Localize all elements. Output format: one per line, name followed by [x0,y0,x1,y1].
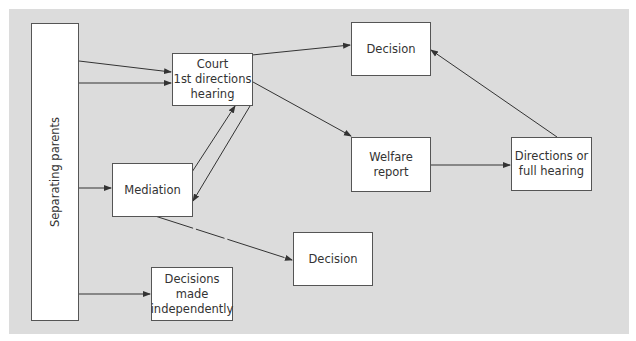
figure-caption-clipped [10,0,14,5]
node-separating-parents-label: Separating parents [48,117,62,227]
node-decision-top: Decision [351,22,431,76]
node-mediation: Mediation [112,163,193,217]
node-directions-or-full-hearing: Directions or full hearing [511,137,592,191]
node-decisions-made-independently: Decisions made independently [151,267,233,321]
node-decision-bottom: Decision [293,232,373,286]
node-court-first-directions-hearing: Court 1st directions hearing [172,53,253,106]
node-separating-parents: Separating parents [31,23,79,321]
node-welfare-report: Welfare report [351,137,431,192]
